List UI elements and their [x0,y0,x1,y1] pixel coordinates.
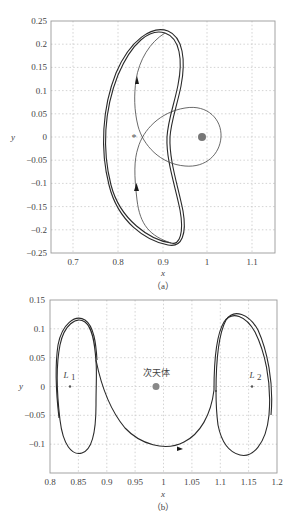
svg-text:−0.1: −0.1 [29,439,45,449]
svg-text:次天体: 次天体 [143,367,170,378]
svg-text:0: 0 [41,382,46,392]
l1-annotation-b: L 1 [62,370,75,388]
l1-star-marker-a: * [132,132,137,143]
svg-text:1.05: 1.05 [184,477,200,487]
svg-text:0.9: 0.9 [101,477,113,487]
y-ticks-a: 0.25 0.2 0.15 0.1 0.05 0 −0.05 −0.1 −0.1… [26,16,47,258]
svg-text:0.8: 0.8 [112,257,124,267]
arrow-right-b [177,447,183,452]
x-ticks-a: 0.7 0.8 0.9 1 1.1 [67,257,257,267]
x-axis-label-b: x [160,489,165,499]
svg-text:−0.05: −0.05 [24,410,45,420]
svg-text:0.1: 0.1 [34,324,45,334]
y-ticks-b: 0.15 0.1 0.05 0 −0.05 −0.1 [24,295,45,449]
svg-text:1: 1 [205,257,210,267]
svg-text:0.9: 0.9 [157,257,169,267]
panel-a: 0.25 0.2 0.15 0.1 0.05 0 −0.05 −0.1 −0.1… [10,16,275,291]
svg-text:L: L [62,370,68,380]
caption-b: （b） [152,502,175,512]
svg-text:−0.05: −0.05 [26,155,47,165]
svg-text:0.15: 0.15 [29,295,45,305]
svg-text:0.05: 0.05 [29,353,45,363]
svg-text:−0.1: −0.1 [31,178,47,188]
svg-text:0.1: 0.1 [36,86,47,96]
svg-text:L: L [248,370,254,380]
svg-text:0: 0 [43,132,48,142]
svg-text:0.85: 0.85 [71,477,87,487]
svg-text:0.25: 0.25 [31,16,47,26]
l2-annotation-b: L 2 [248,370,261,388]
svg-text:0.2: 0.2 [36,39,47,49]
svg-text:−0.25: −0.25 [26,248,47,258]
orbits-b [56,314,272,456]
arrow-up-lower-a [134,183,139,191]
svg-text:0.8: 0.8 [44,477,56,487]
x-axis-label-a: x [160,268,165,278]
figure: 0.25 0.2 0.15 0.1 0.05 0 −0.05 −0.1 −0.1… [0,0,294,520]
grid-a [51,21,275,253]
secondary-body-marker-a [198,133,206,141]
svg-text:1.2: 1.2 [271,477,282,487]
caption-a: （a） [152,281,174,291]
svg-text:0.95: 0.95 [127,477,143,487]
grid-b [50,300,277,473]
svg-text:−0.15: −0.15 [26,202,47,212]
svg-text:0.15: 0.15 [31,62,47,72]
svg-text:0.7: 0.7 [67,257,79,267]
svg-text:0.05: 0.05 [31,109,47,119]
svg-text:1.1: 1.1 [246,257,257,267]
y-axis-label-b: y [18,381,23,391]
svg-text:1.15: 1.15 [241,477,257,487]
x-ticks-b: 0.8 0.85 0.9 0.95 1 1.05 1.1 1.15 1.2 [44,477,282,487]
svg-text:2: 2 [257,372,262,382]
svg-text:1.1: 1.1 [215,477,226,487]
svg-text:−0.2: −0.2 [31,225,47,235]
y-axis-label-a: y [10,132,15,142]
panel-b: 0.15 0.1 0.05 0 −0.05 −0.1 0.8 0.85 0.9 … [18,295,283,512]
svg-text:1: 1 [161,477,166,487]
svg-text:1: 1 [71,372,76,382]
